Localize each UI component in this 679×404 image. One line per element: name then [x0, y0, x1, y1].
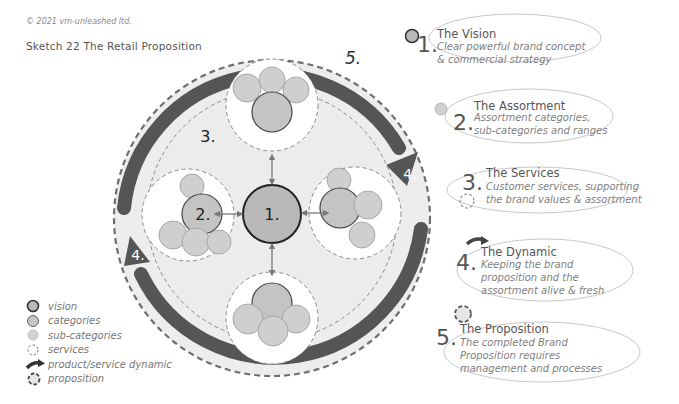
card-line: the brand values & assortment — [486, 194, 642, 207]
sub-categories-icon — [26, 328, 46, 342]
dynamic-arrow-icon-head — [481, 236, 489, 245]
label-dynamic-left: 4. — [131, 247, 144, 263]
card-line: management and processes — [460, 363, 602, 376]
legend: vision categories sub-categories service… — [26, 299, 172, 386]
card-number: 1. — [417, 32, 438, 57]
card-line: The completed Brand — [460, 337, 568, 350]
categories-icon — [26, 314, 46, 328]
legend-item: sub-categories — [26, 328, 172, 343]
card-line: proposition and the — [481, 272, 579, 285]
services-icon — [26, 343, 46, 357]
legend-label: sub-categories — [48, 330, 122, 341]
services-icon — [460, 194, 474, 208]
label-proposition: 5. — [345, 48, 361, 68]
proposition-icon — [455, 306, 471, 322]
vision-icon — [26, 299, 46, 313]
legend-item: proposition — [26, 372, 172, 387]
legend-label: categories — [48, 315, 100, 326]
card-heading: The Assortment — [474, 99, 565, 113]
label-vision: 1. — [264, 205, 279, 224]
label-dynamic-right: 4. — [403, 166, 416, 182]
legend-item: product/service dynamic — [26, 357, 172, 372]
card-line: & commercial strategy — [437, 54, 551, 67]
legend-label: services — [48, 344, 89, 355]
legend-label: vision — [48, 301, 77, 312]
card-line: assortment alive & fresh — [481, 285, 604, 298]
card-number: 5. — [436, 325, 457, 350]
proposition-icon — [26, 372, 46, 386]
legend-item: vision — [26, 299, 172, 314]
legend-label: proposition — [48, 373, 104, 384]
card-number: 3. — [462, 170, 483, 195]
sub-categories-icon — [435, 103, 447, 115]
card-number: 2. — [453, 110, 474, 135]
card-line: Keeping the brand — [481, 259, 573, 272]
legend-label: product/service dynamic — [48, 359, 172, 370]
card-number: 4. — [456, 250, 477, 275]
card-line: Proposition requires — [460, 350, 560, 363]
card-line: Clear powerful brand concept — [437, 41, 585, 54]
dynamic-arrow-icon — [26, 357, 46, 371]
card-heading: The Dynamic — [481, 245, 557, 259]
label-services: 3. — [200, 127, 215, 146]
card-heading: The Vision — [437, 27, 496, 41]
label-assortment: 2. — [195, 205, 210, 224]
legend-item: categories — [26, 314, 172, 329]
card-line: Customer services, supporting — [486, 181, 639, 194]
card-line: Assortment categories, — [474, 112, 590, 125]
card-heading: The Services — [486, 166, 560, 180]
card-heading: The Proposition — [460, 322, 549, 336]
card-line: sub-categories and ranges — [474, 125, 607, 138]
legend-item: services — [26, 343, 172, 358]
